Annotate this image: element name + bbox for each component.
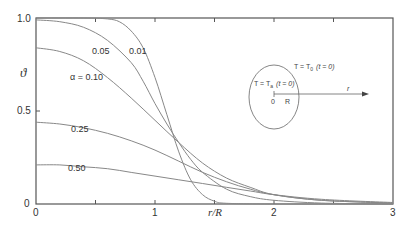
sphere-inset: T = T0(t = 0) T = Ta(t = 0) 0 R r (249, 63, 369, 129)
y-tick-05: 0.5 (17, 105, 31, 116)
x-tick-2: 2 (271, 207, 277, 218)
origin-label: 0 (271, 98, 275, 105)
arrow-head-icon (362, 92, 369, 97)
y-tick-1: 1.0 (17, 13, 31, 24)
curve-label-0.10: α = 0.10 (70, 72, 103, 82)
curve-0.50 (36, 165, 393, 203)
plot-frame (36, 18, 393, 204)
y-axis-title: ϑ (20, 65, 27, 80)
curve-label-0.05: 0.05 (92, 46, 110, 56)
curve-label-0.01: 0.01 (129, 46, 147, 56)
x-tick-1: 1 (152, 207, 158, 218)
curves (36, 18, 393, 204)
radius-label: R (285, 98, 290, 105)
curve-label-0.50: 0.50 (68, 163, 86, 173)
curve-label-0.25: 0.25 (71, 124, 89, 134)
curve-0.25 (36, 122, 393, 203)
temperature-profile-chart: 0 1 2 3 0 0.5 1.0 r/R ϑ 0.01 0.05 α = 0.… (0, 0, 409, 226)
x-tick-0: 0 (33, 207, 39, 218)
curve-0.01 (36, 18, 393, 204)
y-tick-0: 0 (24, 198, 30, 209)
x-axis-title: r/R (208, 206, 222, 218)
inside-condition: T = Ta(t = 0) (254, 80, 295, 89)
outside-condition: T = T0(t = 0) (294, 63, 335, 72)
r-axis-label: r (347, 85, 350, 92)
curve-0.05 (36, 20, 393, 204)
x-tick-3: 3 (390, 207, 396, 218)
